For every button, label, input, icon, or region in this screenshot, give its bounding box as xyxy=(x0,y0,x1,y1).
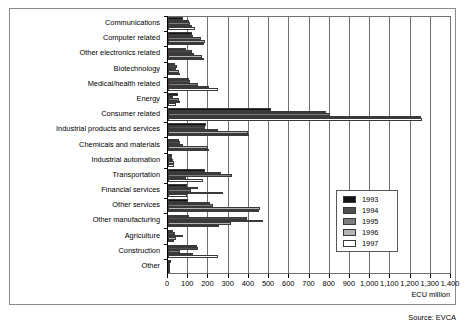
axis-tick xyxy=(410,274,411,278)
axis-tick xyxy=(430,274,431,278)
legend-swatch-1994 xyxy=(343,207,356,214)
bar xyxy=(168,103,176,106)
category-label: Energy xyxy=(137,95,160,103)
axis-tick-label: 1,400 xyxy=(441,279,460,288)
bar-group xyxy=(168,93,451,106)
axis-tick-label: 500 xyxy=(262,279,274,288)
axis-tick-label: 0 xyxy=(165,279,169,288)
chart-legend: 1993 1994 1995 1996 1997 xyxy=(336,190,398,252)
category-label: Biotechnology xyxy=(114,65,160,73)
legend-item: 1994 xyxy=(343,205,397,216)
bar xyxy=(168,88,218,91)
axis-tick xyxy=(248,274,249,278)
category-label: Agriculture xyxy=(125,232,160,240)
legend-label-1993: 1993 xyxy=(362,196,378,204)
axis-tick-label: 1,100 xyxy=(380,279,399,288)
axis-tick-label: 200 xyxy=(201,279,213,288)
axis-tick-label: 1,200 xyxy=(400,279,419,288)
axis-tick-label: 1,000 xyxy=(360,279,379,288)
bar xyxy=(168,73,180,76)
category-label: Other electronics related xyxy=(79,49,160,57)
bar xyxy=(168,210,259,213)
bar-group xyxy=(168,215,451,228)
bar xyxy=(168,58,204,61)
category-label: Industrial products and services xyxy=(56,125,160,133)
bar xyxy=(168,164,174,167)
axis-tick xyxy=(167,274,168,278)
axis-tick-label: 700 xyxy=(302,279,314,288)
bar xyxy=(168,255,218,258)
legend-item: 1996 xyxy=(343,227,397,238)
category-label: Other services xyxy=(112,201,160,209)
category-label: Communications xyxy=(105,19,160,27)
legend-label-1995: 1995 xyxy=(362,218,378,226)
bar xyxy=(168,194,187,197)
bar-group xyxy=(168,108,451,121)
bar xyxy=(168,179,203,182)
bar-group xyxy=(168,139,451,152)
axis-unit-label: ECU million xyxy=(411,290,450,299)
axis-tick xyxy=(329,274,330,278)
category-label: Financial services xyxy=(101,186,160,194)
axis-tick-label: 600 xyxy=(282,279,294,288)
axis-tick xyxy=(207,274,208,278)
legend-swatch-1997 xyxy=(343,240,356,247)
legend-swatch-1996 xyxy=(343,229,356,236)
axis-tick-label: 100 xyxy=(181,279,193,288)
bar xyxy=(168,118,422,121)
bar-group xyxy=(168,169,451,182)
legend-swatch-1995 xyxy=(343,218,356,225)
bar xyxy=(168,43,204,46)
bar-group xyxy=(168,230,451,243)
category-label: Consumer related xyxy=(101,110,160,118)
category-label: Transportation xyxy=(113,171,160,179)
legend-label-1997: 1997 xyxy=(362,240,378,248)
chart-figure: CommunicationsComputer relatedOther elec… xyxy=(0,0,467,336)
bar-group xyxy=(168,17,451,30)
axis-tick xyxy=(309,274,310,278)
bar xyxy=(168,240,174,243)
category-label: Other xyxy=(142,262,160,270)
bar-group xyxy=(168,184,451,197)
category-label: Other manufacturing xyxy=(93,216,160,224)
legend-item: 1995 xyxy=(343,216,397,227)
bar-group xyxy=(168,245,451,258)
bar-group xyxy=(168,199,451,212)
axis-tick-label: 900 xyxy=(343,279,355,288)
category-label: Medical/health related xyxy=(88,80,160,88)
axis-tick xyxy=(389,274,390,278)
axis-tick xyxy=(228,274,229,278)
category-label: Computer related xyxy=(103,34,160,42)
category-axis-labels: CommunicationsComputer relatedOther elec… xyxy=(14,16,164,274)
axis-tick-label: 300 xyxy=(221,279,233,288)
bar xyxy=(168,134,249,137)
plot-area xyxy=(167,16,450,274)
axis-tick xyxy=(369,274,370,278)
bar xyxy=(168,270,170,273)
axis-tick xyxy=(268,274,269,278)
bar xyxy=(168,149,209,152)
axis-tick-label: 400 xyxy=(242,279,254,288)
bar-group xyxy=(168,63,451,76)
bar-group xyxy=(168,123,451,136)
axis-tick xyxy=(288,274,289,278)
category-label: Chemicals and materials xyxy=(79,141,160,149)
bar xyxy=(168,225,219,228)
bar-group xyxy=(168,260,451,273)
bar-group xyxy=(168,78,451,91)
category-label: Construction xyxy=(119,247,161,255)
bar xyxy=(168,27,195,30)
axis-tick-label: 800 xyxy=(323,279,335,288)
axis-tick xyxy=(450,274,451,278)
bar-group xyxy=(168,154,451,167)
axis-tick xyxy=(187,274,188,278)
category-label: Industrial automation xyxy=(91,156,160,164)
bar-group xyxy=(168,48,451,61)
bar-group xyxy=(168,32,451,45)
legend-label-1996: 1996 xyxy=(362,229,378,237)
chart-canvas: CommunicationsComputer relatedOther elec… xyxy=(0,0,467,336)
legend-swatch-1993 xyxy=(343,196,356,203)
legend-item: 1997 xyxy=(343,238,397,249)
axis-tick xyxy=(349,274,350,278)
axis-tick-label: 1,300 xyxy=(421,279,440,288)
